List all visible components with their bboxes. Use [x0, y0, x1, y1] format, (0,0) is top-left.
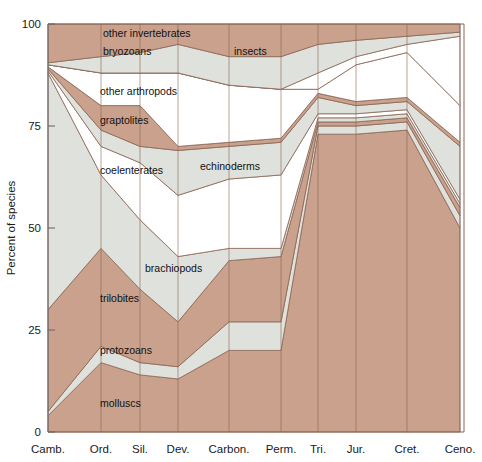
x-tick-label-sil: Sil. [132, 443, 148, 455]
stacked-area-chart: 0255075100Percent of speciesCamb.Ord.Sil… [0, 0, 482, 462]
y-tick-label-25: 25 [28, 324, 41, 336]
x-tick-label-dev: Dev. [167, 443, 190, 455]
x-tick-label-cret: Cret. [395, 443, 420, 455]
x-tick-label-ord: Ord. [90, 443, 112, 455]
x-tick-label-perm: Perm. [266, 443, 297, 455]
series-label-bryozoans: bryozoans [103, 45, 151, 57]
x-tick-label-tri: Tri. [310, 443, 326, 455]
y-axis-title: Percent of species [5, 180, 17, 275]
series-label-coelenterates: coelenterates [100, 164, 163, 176]
series-label-echinoderms: echinoderms [200, 160, 260, 172]
y-tick-label-50: 50 [28, 222, 41, 234]
y-tick-label-75: 75 [28, 120, 41, 132]
series-label-trilobites: trilobites [100, 292, 139, 304]
x-tick-label-ceno: Ceno. [445, 443, 476, 455]
x-tick-label-carbon: Carbon. [209, 443, 250, 455]
series-label-graptolites: graptolites [100, 114, 148, 126]
series-label-brachiopods: brachiopods [145, 262, 202, 274]
series-label-protozoans: protozoans [100, 344, 152, 356]
series-label-molluscs: molluscs [100, 397, 141, 409]
y-tick-label-0: 0 [35, 426, 41, 438]
series-label-other-invertebrates: other invertebrates [103, 27, 191, 39]
series-label-insects: insects [234, 45, 267, 57]
y-tick-label-100: 100 [22, 18, 41, 30]
x-tick-label-camb: Camb. [31, 443, 65, 455]
x-tick-label-jur: Jur. [347, 443, 366, 455]
series-label-other-arthropods: other arthropods [100, 85, 177, 97]
chart-canvas: 0255075100Percent of speciesCamb.Ord.Sil… [0, 0, 482, 462]
